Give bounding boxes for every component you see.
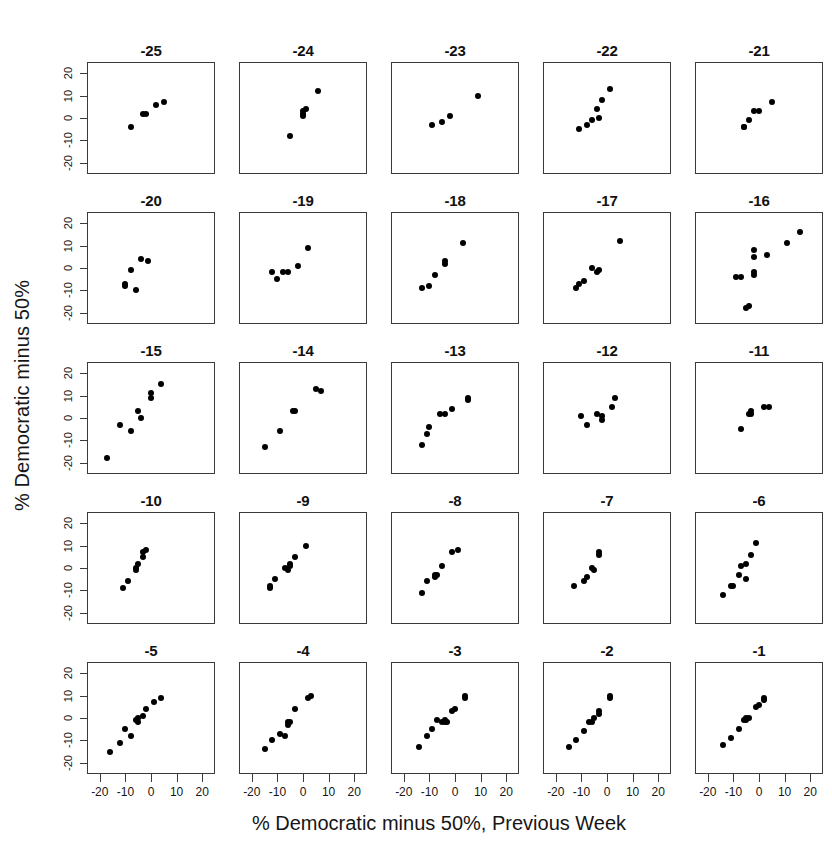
y-tick-label: 10 [57,390,79,402]
y-tick-label-text: 0 [62,415,74,421]
panel-title: -25 [87,42,215,59]
panel-title: -15 [87,342,215,359]
y-tick-label-text: -20 [62,605,74,621]
data-point [120,585,126,591]
y-tick-mark [80,163,87,164]
y-tick-label-text: 0 [62,715,74,721]
y-tick-label: 10 [57,690,79,702]
x-tick-mark [151,774,152,782]
x-tick-label: 20 [491,785,521,799]
panel-title: -9 [239,492,367,509]
x-tick-label: 20 [643,785,673,799]
y-tick-label-text: 0 [62,265,74,271]
data-point [424,733,430,739]
y-tick-label-text: -10 [62,132,74,148]
data-point [143,706,149,712]
data-point [272,576,278,582]
panel-frame [391,662,519,774]
data-point [751,272,757,278]
data-point [607,86,613,92]
y-tick-label-text: -10 [62,732,74,748]
y-axis-title: % Democratic minus 50% [0,0,46,790]
y-tick-label: 20 [57,367,79,379]
x-tick-mark [202,774,203,782]
y-tick-mark [80,396,87,397]
data-point [151,699,157,705]
y-tick-label-text: -10 [62,582,74,598]
y-tick-mark [80,463,87,464]
scatter-panel--6: -6 [695,512,823,624]
x-tick-mark [277,774,278,782]
x-tick-mark [329,774,330,782]
y-tick-mark [80,268,87,269]
data-point [318,388,324,394]
panel-title: -3 [391,642,519,659]
panel-frame [695,362,823,474]
panel-frame [87,212,215,324]
scatter-panel--22: -22 [543,62,671,174]
data-point [748,552,754,558]
scatter-panel--2: -2-20-1001020 [543,662,671,774]
data-point [584,122,590,128]
data-point [287,561,293,567]
data-point [262,746,268,752]
y-tick-label-text: -10 [62,282,74,298]
panel-frame [87,62,215,174]
y-tick-label: 10 [57,240,79,252]
y-tick-mark [80,673,87,674]
data-point [746,303,752,309]
scatter-panel--4: -4-20-1001020 [239,662,367,774]
y-tick-label: -10 [57,284,79,296]
panel-title: -7 [543,492,671,509]
y-tick-label-text: 10 [62,239,74,251]
y-tick-mark [80,290,87,291]
panel-frame [239,512,367,624]
scatter-panel--7: -7 [543,512,671,624]
panel-title: -20 [87,192,215,209]
data-point [455,547,461,553]
y-tick-label-text: 10 [62,89,74,101]
data-point [442,411,448,417]
scatter-panel--25: -2520100-10-20 [87,62,215,174]
data-point [617,238,623,244]
data-point [267,583,273,589]
y-tick-label-text: 20 [62,667,74,679]
data-point [128,733,134,739]
y-tick-label-text: 20 [62,517,74,529]
y-tick-label-text: 10 [62,689,74,701]
data-point [764,252,770,258]
x-tick-mark [581,774,582,782]
data-point [465,395,471,401]
data-point [589,117,595,123]
x-tick-mark [658,774,659,782]
panel-title: -16 [695,192,823,209]
scatter-panel--17: -17 [543,212,671,324]
panel-title: -23 [391,42,519,59]
y-tick-label: -10 [57,434,79,446]
scatter-panel--3: -3-20-1001020 [391,662,519,774]
panel-frame [695,212,823,324]
data-point [720,742,726,748]
panel-title: -12 [543,342,671,359]
y-tick-label: 20 [57,667,79,679]
data-point [153,102,159,108]
panel-title: -24 [239,42,367,59]
scatter-panel--23: -23 [391,62,519,174]
y-tick-mark [80,523,87,524]
panel-frame [543,362,671,474]
y-tick-mark [80,568,87,569]
y-tick-label: -20 [57,307,79,319]
data-point [128,428,134,434]
panel-title: -4 [239,642,367,659]
data-point [571,583,577,589]
data-point [609,404,615,410]
y-tick-label: -10 [57,734,79,746]
data-point [736,726,742,732]
scatter-panel--16: -16 [695,212,823,324]
data-point [295,263,301,269]
y-axis-title-text: % Democratic minus 50% [12,279,35,510]
data-point [736,572,742,578]
data-point [599,97,605,103]
y-tick-label: 0 [57,262,79,274]
y-tick-label-text: -20 [62,455,74,471]
